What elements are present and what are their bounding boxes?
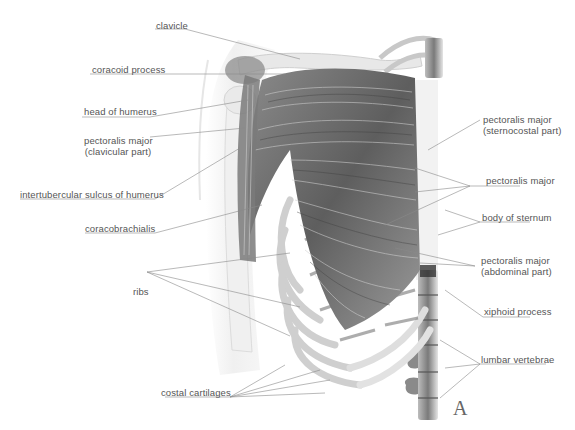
label-pectoralis-major-sternocostal-line1: pectoralis major [483,114,561,125]
label-pectoralis-major-abdominal-line2: (abdominal part) [481,266,552,277]
panel-letter: A [453,397,467,420]
label-pectoralis-major-sternocostal: pectoralis major (sternocostal part) [483,114,561,136]
label-ribs: ribs [133,286,149,297]
label-xiphoid-process: xiphoid process [484,306,552,317]
label-lumbar-vertebrae: lumbar vertebrae [481,354,554,365]
label-intertubercular-sulcus: intertubercular sulcus of humerus [20,189,164,200]
anatomy-figure: clavicle coracoid process head of humeru… [0,0,575,430]
label-pectoralis-major-clavicular-line1: pectoralis major [84,135,152,146]
label-body-of-sternum: body of sternum [482,212,552,223]
label-pectoralis-major: pectoralis major [486,175,555,186]
label-coracoid-process: coracoid process [92,64,165,75]
label-costal-cartilages: costal cartilages [161,387,231,398]
label-clavicle: clavicle [156,20,188,31]
label-coracobrachialis: coracobrachialis [85,223,155,234]
pectoralis-major-muscle [248,68,420,330]
label-pectoralis-major-sternocostal-line2: (sternocostal part) [483,125,561,136]
label-head-of-humerus: head of humerus [84,106,157,117]
label-pectoralis-major-abdominal-line1: pectoralis major [481,255,552,266]
label-pectoralis-major-abdominal: pectoralis major (abdominal part) [481,255,552,277]
label-pectoralis-major-clavicular: pectoralis major (clavicular part) [84,135,152,157]
label-pectoralis-major-clavicular-line2: (clavicular part) [84,146,152,157]
